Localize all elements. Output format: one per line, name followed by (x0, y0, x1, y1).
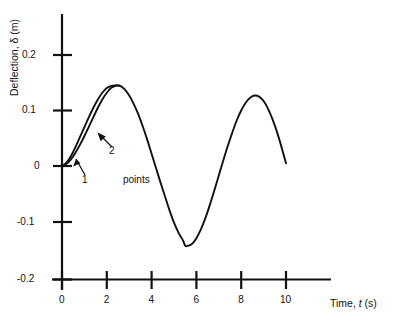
x-tick-label-5: 10 (280, 294, 291, 305)
y-axis-title: Deflection, δ (m) (8, 0, 20, 96)
deflection-curve-1 (62, 85, 286, 246)
x-tick-label-4: 8 (238, 294, 244, 305)
chart-plot-area (0, 0, 413, 325)
x-tick-label-3: 6 (193, 294, 199, 305)
x-tick-label-0: 0 (59, 294, 65, 305)
curve-label-2: 2 (109, 145, 115, 156)
curve-label-1: 1 (82, 174, 88, 185)
y-tick-label-4: -0.2 (17, 273, 34, 284)
chart-container: 0.2 0.1 0 -0.1 -0.2 0 2 4 6 8 10 1 2 poi… (0, 0, 413, 325)
x-tick-label-2: 4 (149, 294, 155, 305)
y-tick-label-3: -0.1 (17, 216, 34, 227)
x-tick-label-1: 2 (104, 294, 110, 305)
y-tick-label-1: 0.1 (22, 104, 36, 115)
y-tick-label-0: 0.2 (22, 49, 36, 60)
points-label: points (123, 174, 150, 185)
x-axis-title-text: Time, t (s) (330, 297, 377, 309)
y-tick-label-2: 0 (34, 160, 40, 171)
x-axis-title: Time, t (s) (330, 297, 377, 309)
